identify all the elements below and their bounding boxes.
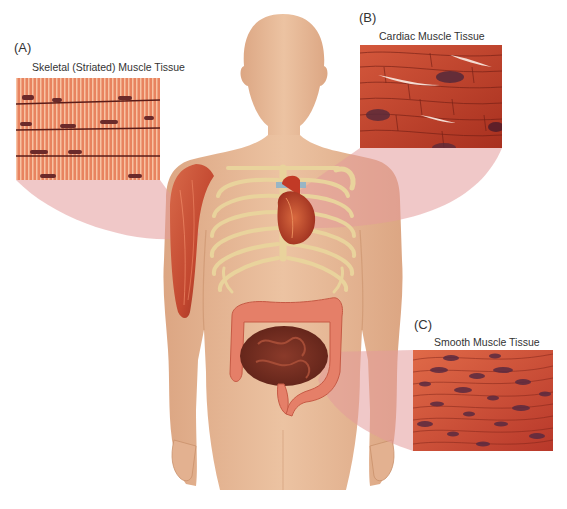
muscle-tissue-diagram: (A) Skeletal (Striated) Muscle Tissue <box>0 0 567 509</box>
panel-c-letter: (C) <box>414 317 432 332</box>
cardiac-tissue-panel <box>360 45 502 148</box>
skeletal-tissue-panel <box>16 78 160 180</box>
smooth-tissue-panel <box>413 350 553 451</box>
panel-b-letter: (B) <box>359 10 376 25</box>
panel-a-letter: (A) <box>14 40 31 55</box>
panel-a-title: Skeletal (Striated) Muscle Tissue <box>32 61 185 73</box>
panel-b-title: Cardiac Muscle Tissue <box>379 30 485 42</box>
panel-c-title: Smooth Muscle Tissue <box>434 336 540 348</box>
head <box>241 14 328 145</box>
